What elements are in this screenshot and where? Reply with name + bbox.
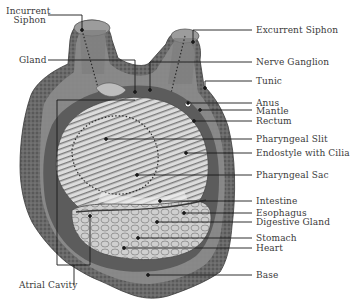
tunicate-anatomy-diagram: Incurrent Siphon Gland Atrial Cavity Exc…: [0, 0, 356, 305]
label-incurrent-siphon: Incurrent Siphon: [6, 7, 46, 25]
label-endostyle-with-cilia: Endostyle with Cilia: [256, 149, 350, 158]
label-atrial-cavity: Atrial Cavity: [19, 281, 77, 290]
label-heart: Heart: [256, 244, 283, 253]
label-base: Base: [256, 271, 278, 280]
label-digestive-gland: Digestive Gland: [256, 218, 330, 227]
label-intestine: Intestine: [256, 197, 297, 206]
label-incurrent-siphon-line2: Siphon: [6, 16, 46, 25]
label-excurrent-siphon: Excurrent Siphon: [256, 26, 338, 35]
label-mantle: Mantle: [256, 107, 289, 116]
label-rectum: Rectum: [256, 117, 292, 126]
label-stomach: Stomach: [256, 234, 297, 243]
label-gland: Gland: [19, 56, 47, 65]
label-tunic: Tunic: [256, 77, 282, 86]
label-pharyngeal-slit: Pharyngeal Slit: [256, 135, 328, 144]
label-pharyngeal-sac: Pharyngeal Sac: [256, 171, 329, 180]
label-nerve-ganglion: Nerve Ganglion: [256, 58, 329, 67]
